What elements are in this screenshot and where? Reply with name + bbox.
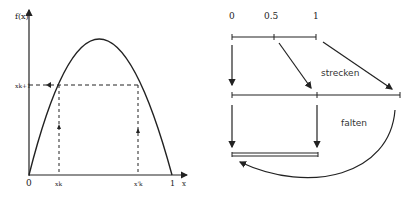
- x-tick-origin: 0: [26, 178, 32, 188]
- stretch-label: strecken: [321, 68, 359, 78]
- y-tick-xk1: xk+1: [15, 82, 31, 89]
- arrow-up-icon: [136, 128, 140, 133]
- label-zero: 0: [229, 11, 235, 21]
- left-plot: f(x) xk+1 0 xk x'k 1 x: [15, 10, 187, 188]
- y-axis-label: f(x): [15, 12, 29, 21]
- stretch-fold-diagram: 0 0.5 1 strecken falten: [229, 11, 400, 178]
- x-axis-label: x: [182, 180, 186, 188]
- stretch-arrow-middle: [279, 43, 311, 88]
- diagram-canvas: f(x) xk+1 0 xk x'k 1 x 0 0.5 1 strecken …: [0, 0, 414, 197]
- fold-label: falten: [341, 118, 367, 128]
- stretch-arrow-right: [323, 42, 392, 89]
- x-tick-xk: xk: [55, 180, 62, 187]
- label-half: 0.5: [264, 11, 279, 21]
- arrow-left-icon: [46, 82, 51, 88]
- x-tick-xk-prime: x'k: [134, 180, 143, 187]
- label-one: 1: [313, 11, 319, 21]
- arrow-up-icon: [57, 124, 61, 129]
- parabola-curve: [29, 39, 172, 175]
- x-tick-one: 1: [170, 179, 175, 188]
